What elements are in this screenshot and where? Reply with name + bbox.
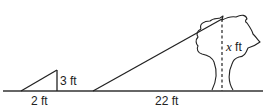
tree-shadow-label: 22 ft bbox=[155, 94, 179, 108]
diagram-canvas: 3 ft 2 ft x ft 22 ft bbox=[0, 0, 272, 108]
small-height-label: 3 ft bbox=[60, 74, 77, 88]
small-triangle bbox=[21, 70, 57, 91]
tree-height-unit: ft bbox=[232, 40, 243, 54]
shadow-hypotenuse bbox=[93, 19, 222, 91]
tree-height-label: x ft bbox=[225, 39, 242, 54]
small-base-label: 2 ft bbox=[31, 94, 48, 108]
